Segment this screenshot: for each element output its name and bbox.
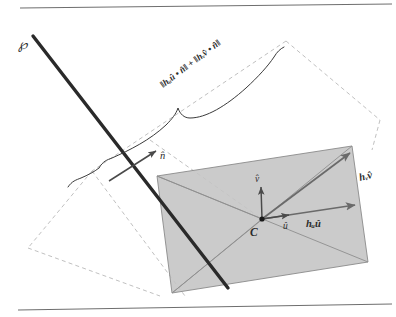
brace-tail-left bbox=[68, 168, 99, 187]
guide-lower-left bbox=[28, 171, 92, 248]
guide-upper-right bbox=[286, 41, 380, 120]
normal-label: n̂ bbox=[160, 150, 165, 161]
guide-bottom bbox=[28, 248, 160, 296]
extent-v-label: hᵥv̂ bbox=[358, 169, 374, 183]
top-rule bbox=[20, 4, 392, 8]
plane-label: ℘ bbox=[18, 37, 29, 52]
brace-expression-label: ‖hᵤû • n̂‖ + ‖hᵥv̂ • n̂‖ bbox=[158, 38, 222, 90]
extent-u-label: hᵤû bbox=[306, 218, 321, 229]
bottom-rule bbox=[18, 304, 392, 310]
box-center-dot bbox=[259, 216, 264, 221]
normal-vector-arrow bbox=[109, 151, 156, 181]
geometry-diagram: ℘ n̂ C û v̂ hᵤû hᵥv̂ ‖hᵤû • n̂‖ + ‖hᵥv̂ … bbox=[0, 0, 396, 317]
plane-line bbox=[33, 36, 228, 288]
center-label: C bbox=[250, 226, 258, 238]
unit-u-label: û bbox=[283, 221, 288, 231]
figure-container: ℘ n̂ C û v̂ hᵤû hᵥv̂ ‖hᵤû • n̂‖ + ‖hᵥv̂ … bbox=[0, 0, 396, 317]
unit-v-arrow bbox=[261, 187, 262, 219]
guide-right-edge bbox=[372, 120, 380, 150]
